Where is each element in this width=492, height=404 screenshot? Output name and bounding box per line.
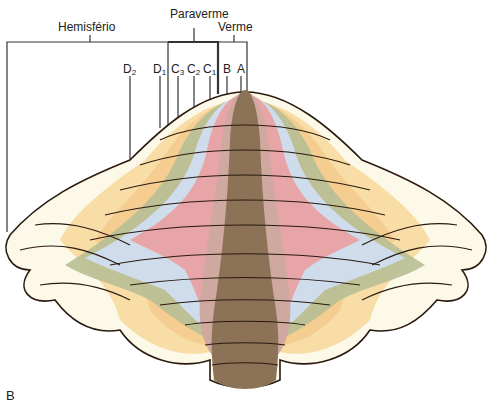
vermis-label: Verme [218,21,253,33]
panel-letter: B [6,388,15,403]
zone-label-c1: C1 [203,63,216,77]
zone-label-d2: D2 [123,63,136,77]
zone-label-c2: C2 [187,63,200,77]
zone-label-a: A [237,63,245,75]
zone-label-d1: D1 [153,63,166,77]
cerebellum-illustration [0,0,492,404]
zone-label-c3: C3 [171,63,184,77]
cerebellum-diagram: Hemisfério Paraverme Verme D2 D1 C3 C2 C… [0,0,492,404]
hemisphere-label: Hemisfério [58,21,115,33]
paravermis-label: Paraverme [170,8,229,20]
zone-label-b: B [223,63,231,75]
